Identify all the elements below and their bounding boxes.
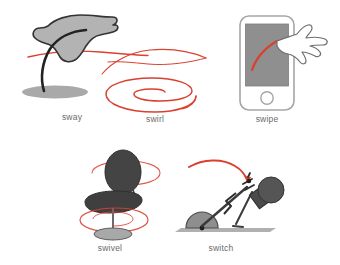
caption-swirl: swirl — [146, 114, 164, 124]
switch-knob[interactable] — [258, 177, 284, 203]
caption-swipe: swipe — [256, 114, 279, 124]
switch-arm-foot — [233, 226, 243, 227]
figure-canvas: sway swirl swipe swivel switch — [0, 0, 340, 265]
switch-arm-lower — [236, 192, 252, 224]
switch-arm-main — [202, 187, 247, 226]
caption-swivel: swivel — [98, 243, 122, 253]
panel-switch — [0, 0, 340, 265]
switch-motion-arc — [189, 160, 248, 182]
caption-sway: sway — [62, 112, 82, 122]
switch-spring — [224, 193, 236, 214]
caption-switch: switch — [209, 243, 234, 253]
switch-lever-icon — [175, 160, 284, 232]
switch-pivot-node — [247, 179, 251, 183]
